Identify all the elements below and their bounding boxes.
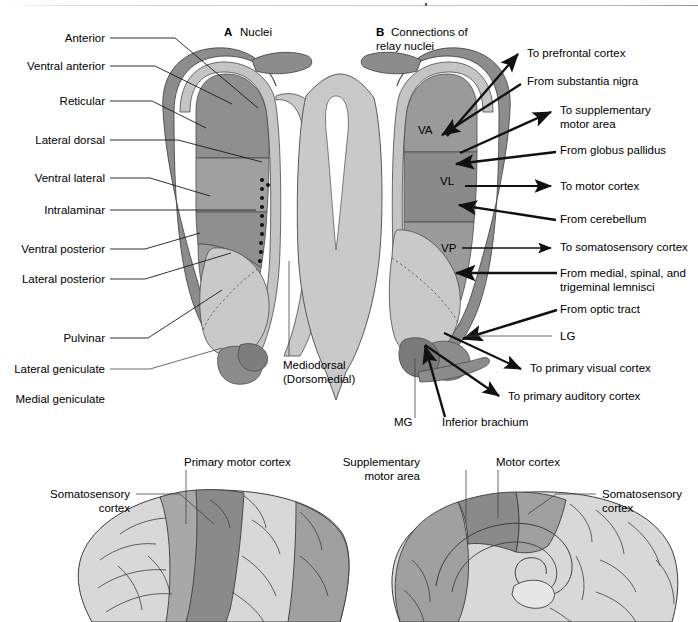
abbrev-vl: VL — [440, 175, 455, 187]
abbrev-mg: MG — [394, 416, 413, 428]
label-lg: LG — [560, 330, 575, 342]
brain-right-label-somatosensory-line2: cortex — [602, 502, 634, 514]
panel-a-title: Nuclei — [240, 26, 272, 38]
label-intralaminar: Intralaminar — [44, 204, 105, 216]
brain-right-sma-band — [395, 502, 468, 622]
panel-a-letter: A — [224, 26, 232, 38]
brain-lateral-view: Somatosensory cortex Primary motor corte… — [50, 456, 349, 622]
panel-a-header: A Nuclei — [224, 26, 272, 38]
abbrev-va: VA — [418, 124, 433, 136]
label-inferior-brachium: Inferior brachium — [442, 416, 528, 428]
label-from-lemnisci-line2: trigeminal lemnisci — [560, 281, 655, 293]
panel-b-title-line1: Connections of — [391, 26, 469, 38]
leader-reticular — [110, 101, 206, 128]
brain-right-label-motor-cortex: Motor cortex — [496, 456, 560, 468]
leader-ventral-lateral — [110, 178, 210, 196]
brain-left-posterior-region — [288, 502, 349, 622]
left-lateral-dorsal — [196, 158, 269, 212]
right-capsule-tail — [361, 52, 421, 74]
panel-b-letter: B — [376, 26, 384, 38]
label-ventral-anterior: Ventral anterior — [27, 60, 105, 72]
brain-left-label-somatosensory-line1: Somatosensory — [50, 488, 130, 500]
brain-left-label-somatosensory-line2: cortex — [99, 502, 131, 514]
label-to-primary-auditory-cortex: To primary auditory cortex — [508, 390, 641, 402]
label-from-substantia-nigra: From substantia nigra — [527, 75, 639, 87]
label-to-primary-visual-cortex: To primary visual cortex — [530, 362, 651, 374]
label-ventral-lateral: Ventral lateral — [35, 172, 105, 184]
brain-right-label-sma-line1: Supplementary — [343, 456, 421, 468]
thalamus-figure: A Nuclei B Connections of relay nuclei — [0, 0, 698, 622]
brain-medial-view: Supplementary motor area Motor cortex So… — [343, 456, 683, 622]
label-mediodorsal-line1: Mediodorsal — [283, 359, 346, 371]
brain-right-label-somatosensory-line1: Somatosensory — [602, 488, 682, 500]
abbrev-vp: VP — [441, 242, 457, 254]
label-to-supplementary-motor-area-line2: motor area — [560, 118, 616, 130]
leader-lateral-geniculate — [110, 348, 222, 369]
label-to-motor-cortex: To motor cortex — [560, 180, 639, 192]
brain-right-label-sma-line2: motor area — [364, 470, 420, 482]
thalamus-illustration — [163, 48, 510, 400]
brain-left-label-primary-motor: Primary motor cortex — [184, 456, 291, 468]
label-pulvinar: Pulvinar — [63, 332, 105, 344]
label-mediodorsal-line2: (Dorsomedial) — [283, 373, 355, 385]
label-to-supplementary-motor-area-line1: To supplementary — [560, 104, 651, 116]
label-ventral-posterior: Ventral posterior — [21, 243, 105, 255]
label-reticular: Reticular — [60, 95, 106, 107]
label-anterior: Anterior — [65, 32, 105, 44]
label-from-lemnisci-line1: From medial, spinal, and — [560, 267, 686, 279]
label-to-prefrontal-cortex: To prefrontal cortex — [527, 47, 626, 59]
label-medial-geniculate: Medial geniculate — [15, 393, 105, 405]
arrow-from-optic-tract — [463, 310, 557, 339]
label-from-globus-pallidus: From globus pallidus — [560, 144, 666, 156]
left-capsule-tail — [252, 52, 312, 74]
label-from-optic-tract: From optic tract — [560, 303, 641, 315]
label-to-somatosensory-cortex: To somatosensory cortex — [560, 241, 688, 253]
label-lateral-dorsal: Lateral dorsal — [35, 134, 105, 146]
label-lateral-posterior: Lateral posterior — [22, 273, 105, 285]
label-lateral-geniculate: Lateral geniculate — [14, 363, 105, 375]
panel-b-title-line2: relay nuclei — [376, 40, 434, 52]
label-from-cerebellum: From cerebellum — [560, 213, 646, 225]
